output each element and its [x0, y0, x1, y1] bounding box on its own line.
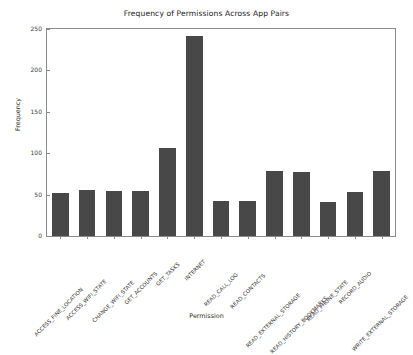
- x-tick-mark: [60, 236, 61, 239]
- bar: [213, 201, 230, 236]
- y-tick-mark: [47, 236, 50, 237]
- x-tick-mark: [382, 236, 383, 239]
- y-tick-label: 0: [38, 232, 42, 240]
- y-axis-label: Frequency: [14, 98, 22, 131]
- y-tick-label: 150: [31, 108, 42, 116]
- bar: [266, 171, 283, 236]
- x-tick-label-text: INTERNET: [184, 259, 207, 282]
- chart-title: Frequency of Permissions Across App Pair…: [0, 9, 413, 18]
- bar: [293, 172, 310, 236]
- bar: [239, 201, 256, 236]
- y-tick-mark: [47, 153, 50, 154]
- x-tick-label-text: READ_EXTERNAL_STORAGE: [244, 292, 301, 349]
- x-tick-mark: [194, 236, 195, 239]
- x-tick-mark: [275, 236, 276, 239]
- bar: [347, 192, 364, 236]
- bar: [159, 148, 176, 236]
- x-axis-label: Permission: [0, 312, 413, 320]
- x-tick-mark: [248, 236, 249, 239]
- x-tick-mark: [87, 236, 88, 239]
- bar: [52, 193, 69, 236]
- y-tick-label: 100: [31, 149, 42, 157]
- x-tick-mark: [141, 236, 142, 239]
- x-tick-mark: [328, 236, 329, 239]
- x-tick-mark: [355, 236, 356, 239]
- y-tick-mark: [47, 29, 50, 30]
- x-tick-label: WRITE_EXTERNAL_STORAGE: [403, 241, 413, 299]
- bar: [373, 171, 390, 236]
- x-tick-mark: [221, 236, 222, 239]
- x-tick-label-text: WRITE_EXTERNAL_STORAGE: [350, 294, 408, 352]
- x-tick-label: READ_EXTERNAL_STORAGE: [295, 241, 352, 298]
- y-tick-mark: [47, 195, 50, 196]
- x-tick-mark: [167, 236, 168, 239]
- y-tick-mark: [47, 70, 50, 71]
- y-tick-label: 250: [31, 25, 42, 33]
- plot-area: [47, 29, 395, 236]
- bar: [79, 190, 96, 236]
- x-tick-label: INTERNET: [201, 241, 224, 264]
- x-tick-mark: [114, 236, 115, 239]
- y-tick-label: 50: [34, 191, 42, 199]
- x-tick-mark: [301, 236, 302, 239]
- bar: [186, 36, 203, 236]
- bar: [132, 191, 149, 236]
- y-tick-label: 200: [31, 66, 42, 74]
- y-tick-mark: [47, 112, 50, 113]
- plot-axes: 050100150200250ACCESS_FINE_LOCATIONACCES…: [46, 28, 396, 237]
- bar: [320, 202, 337, 236]
- bar: [106, 191, 123, 236]
